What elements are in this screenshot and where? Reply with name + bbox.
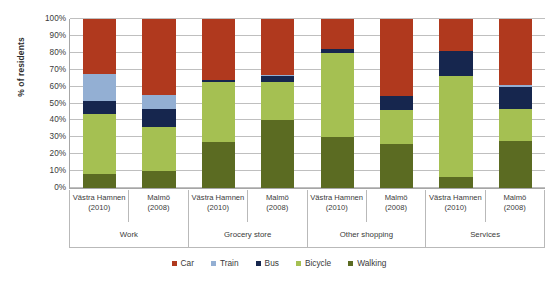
category-axis-groups: WorkGrocery storeOther shoppingServices xyxy=(69,222,545,248)
bar-slot xyxy=(189,19,248,188)
bar-segment-bicycle[interactable] xyxy=(261,82,294,120)
bar-segment-bicycle[interactable] xyxy=(439,76,472,177)
stacked-bar[interactable] xyxy=(202,19,235,188)
bar-segment-bus[interactable] xyxy=(142,109,175,127)
bar-segment-bicycle[interactable] xyxy=(83,114,116,174)
stacked-bar-chart: % of residents 0%10%20%30%40%50%60%70%80… xyxy=(0,0,558,283)
y-axis-tick-label: 90% xyxy=(50,30,66,39)
bar-segment-walking[interactable] xyxy=(83,174,116,188)
legend-item[interactable]: Bus xyxy=(256,258,279,268)
category-tick: Västra Hamnen(2010) xyxy=(69,190,129,222)
bar-segment-car[interactable] xyxy=(380,19,413,96)
category-tick: Västra Hamnen(2010) xyxy=(189,190,248,222)
y-axis-tick-label: 70% xyxy=(50,64,66,73)
bar-slot xyxy=(367,19,426,188)
bar-segment-car[interactable] xyxy=(142,19,175,95)
category-axis-ticks: Västra Hamnen(2010)Malmö(2008)Västra Ham… xyxy=(69,190,545,222)
legend-swatch-icon xyxy=(256,261,261,266)
bar-segment-car[interactable] xyxy=(261,19,294,75)
category-tick-name: Malmö xyxy=(147,193,170,203)
stacked-bar[interactable] xyxy=(439,19,472,188)
y-axis-tick-label: 40% xyxy=(50,115,66,124)
bar-segment-walking[interactable] xyxy=(380,144,413,188)
y-axis-tick-label: 10% xyxy=(50,166,66,175)
bar-slot xyxy=(70,19,129,188)
stacked-bar[interactable] xyxy=(142,19,175,188)
legend-item[interactable]: Bicycle xyxy=(296,258,331,268)
bar-segment-bicycle[interactable] xyxy=(321,53,354,138)
y-axis-tick-label: 80% xyxy=(50,47,66,56)
category-group: Services xyxy=(426,222,545,248)
bar-segment-train[interactable] xyxy=(142,95,175,109)
bar-slot xyxy=(308,19,367,188)
bar-segment-bus[interactable] xyxy=(439,51,472,76)
category-tick: Malmö(2008) xyxy=(486,190,545,222)
bar-segment-bicycle[interactable] xyxy=(380,110,413,144)
bar-segment-car[interactable] xyxy=(439,19,472,51)
bar-slot xyxy=(248,19,307,188)
plot-area: 0%10%20%30%40%50%60%70%80%90%100% xyxy=(69,19,545,189)
bar-segment-walking[interactable] xyxy=(321,137,354,188)
category-tick-year: (2008) xyxy=(504,203,526,213)
y-axis-tick-label: 100% xyxy=(45,14,66,23)
bar-segment-walking[interactable] xyxy=(439,177,472,188)
bar-segment-walking[interactable] xyxy=(499,141,532,188)
bar-segment-walking[interactable] xyxy=(202,142,235,188)
stacked-bar[interactable] xyxy=(380,19,413,188)
bar-segment-train[interactable] xyxy=(83,74,116,101)
bar-segment-bus[interactable] xyxy=(380,96,413,110)
bar-segment-car[interactable] xyxy=(499,19,532,85)
category-tick: Malmö(2008) xyxy=(129,190,188,222)
y-axis-title: % of residents xyxy=(16,12,26,122)
stacked-bar[interactable] xyxy=(261,19,294,188)
bar-segment-bicycle[interactable] xyxy=(202,82,235,143)
category-group-label: Other shopping xyxy=(340,230,393,239)
category-tick-name: Västra Hamnen xyxy=(429,193,482,203)
y-axis-tick-label: 20% xyxy=(50,149,66,158)
bar-segment-car[interactable] xyxy=(321,19,354,49)
bar-segment-bicycle[interactable] xyxy=(499,109,532,140)
legend-swatch-icon xyxy=(172,261,177,266)
category-tick: Västra Hamnen(2010) xyxy=(426,190,485,222)
category-tick-name: Västra Hamnen xyxy=(192,193,245,203)
legend-label: Car xyxy=(181,258,194,268)
category-tick: Västra Hamnen(2010) xyxy=(308,190,367,222)
category-tick-name: Malmö xyxy=(503,193,526,203)
category-tick-name: Västra Hamnen xyxy=(73,193,126,203)
legend-item[interactable]: Train xyxy=(211,258,239,268)
category-group-label: Grocery store xyxy=(224,230,271,239)
category-tick-name: Malmö xyxy=(266,193,289,203)
category-tick-year: (2010) xyxy=(207,203,229,213)
bar-segment-walking[interactable] xyxy=(142,171,175,188)
bar-segment-car[interactable] xyxy=(202,19,235,80)
stacked-bar[interactable] xyxy=(499,19,532,188)
category-axis: Västra Hamnen(2010)Malmö(2008)Västra Ham… xyxy=(69,190,545,250)
category-tick-year: (2010) xyxy=(444,203,466,213)
bar-slot xyxy=(426,19,485,188)
legend-swatch-icon xyxy=(211,261,216,266)
category-group: Grocery store xyxy=(189,222,308,248)
legend-item[interactable]: Car xyxy=(172,258,194,268)
bar-segment-car[interactable] xyxy=(83,19,116,74)
category-tick-year: (2010) xyxy=(326,203,348,213)
bar-segment-bus[interactable] xyxy=(499,87,532,110)
bar-segment-bicycle[interactable] xyxy=(142,127,175,171)
category-tick-year: (2008) xyxy=(148,203,170,213)
legend-item[interactable]: Walking xyxy=(348,258,386,268)
category-group: Work xyxy=(69,222,189,248)
stacked-bar[interactable] xyxy=(321,19,354,188)
category-tick: Malmö(2008) xyxy=(367,190,426,222)
bar-segment-walking[interactable] xyxy=(261,120,294,188)
legend-label: Walking xyxy=(357,258,386,268)
bar-slot xyxy=(129,19,188,188)
category-group-label: Work xyxy=(120,230,138,239)
legend-swatch-icon xyxy=(296,261,301,266)
y-axis-tick-label: 60% xyxy=(50,81,66,90)
category-tick-name: Västra Hamnen xyxy=(310,193,363,203)
category-tick-year: (2010) xyxy=(88,203,110,213)
legend-label: Bicycle xyxy=(305,258,331,268)
category-tick: Malmö(2008) xyxy=(248,190,307,222)
stacked-bar[interactable] xyxy=(83,19,116,188)
bar-segment-bus[interactable] xyxy=(83,101,116,114)
y-axis-tick-label: 50% xyxy=(50,98,66,107)
